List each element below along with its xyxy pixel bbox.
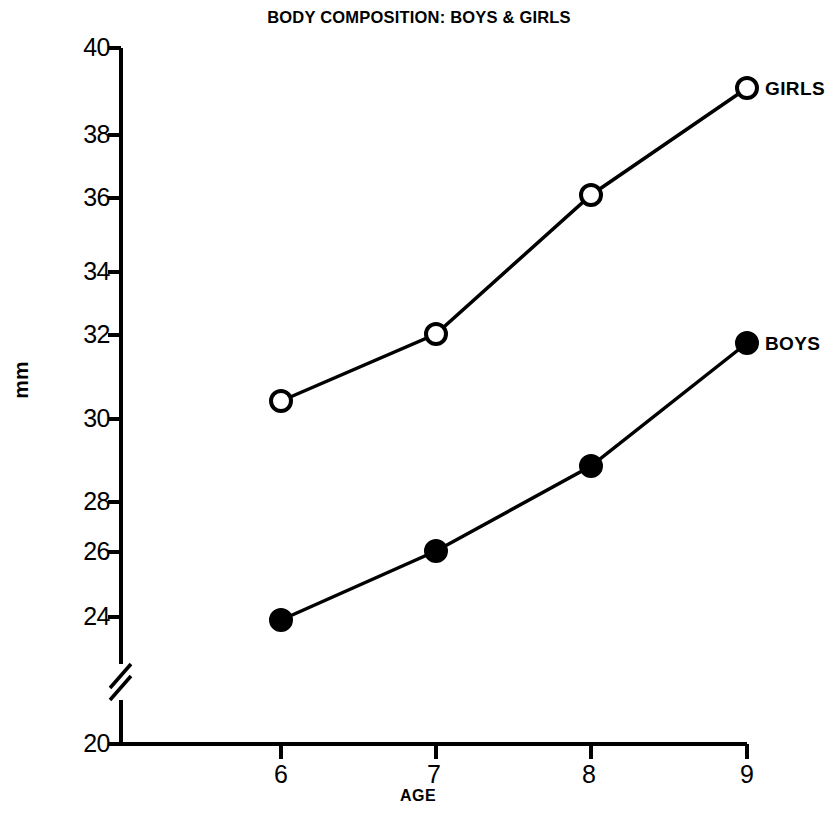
data-point-girls-age6 bbox=[271, 391, 291, 411]
data-point-boys-age9 bbox=[736, 332, 758, 354]
y-axis-break-icon bbox=[110, 664, 131, 700]
series-markers-girls bbox=[271, 78, 757, 411]
plot-area bbox=[0, 0, 838, 836]
series-line-girls bbox=[281, 88, 747, 401]
x-axis bbox=[121, 744, 747, 759]
data-point-girls-age9 bbox=[737, 78, 757, 98]
data-point-girls-age7 bbox=[426, 324, 446, 344]
series-markers-boys bbox=[270, 332, 758, 631]
series-line-boys bbox=[281, 343, 747, 620]
data-point-girls-age8 bbox=[581, 185, 601, 205]
data-point-boys-age8 bbox=[580, 455, 602, 477]
chart-container: BODY COMPOSITION: BOYS & GIRLS mm AGE 40… bbox=[0, 0, 838, 836]
data-point-boys-age6 bbox=[270, 609, 292, 631]
y-axis bbox=[108, 48, 121, 744]
data-point-boys-age7 bbox=[425, 540, 447, 562]
